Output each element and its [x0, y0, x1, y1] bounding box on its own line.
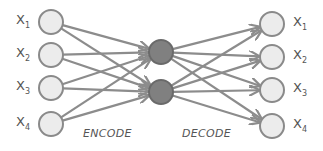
decode-edge-2-3	[173, 90, 259, 92]
autoencoder-diagram	[0, 0, 323, 151]
input-node-1	[39, 10, 63, 34]
output-label-2: X2	[293, 47, 307, 65]
encode-edge-2-1	[63, 52, 148, 54]
output-label-4: X4	[293, 116, 307, 134]
input-label-2: X2	[16, 45, 30, 63]
output-label-1: X1	[293, 14, 307, 32]
input-node-2	[39, 43, 63, 67]
output-label-3: X3	[293, 80, 307, 98]
output-node-4	[260, 114, 284, 138]
decode-edge-1-2	[173, 53, 259, 57]
decode-edge-2-2	[172, 61, 259, 88]
input-label-4: X4	[16, 114, 30, 132]
decode-edge-1-3	[172, 56, 259, 86]
input-label-1: X1	[16, 12, 30, 30]
encode-edge-2-2	[62, 59, 148, 88]
decode-edge-1-1	[173, 27, 260, 49]
encode-edge-3-1	[62, 56, 148, 84]
output-node-2	[260, 45, 284, 69]
hidden-node-1	[149, 40, 173, 64]
input-node-4	[39, 112, 63, 136]
encode-label: ENCODE	[83, 127, 132, 140]
input-label-3: X3	[16, 78, 30, 96]
hidden-node-2	[149, 80, 173, 104]
output-node-1	[260, 12, 284, 36]
input-node-3	[39, 76, 63, 100]
decode-label: DECODE	[182, 127, 231, 140]
output-node-3	[260, 78, 284, 102]
